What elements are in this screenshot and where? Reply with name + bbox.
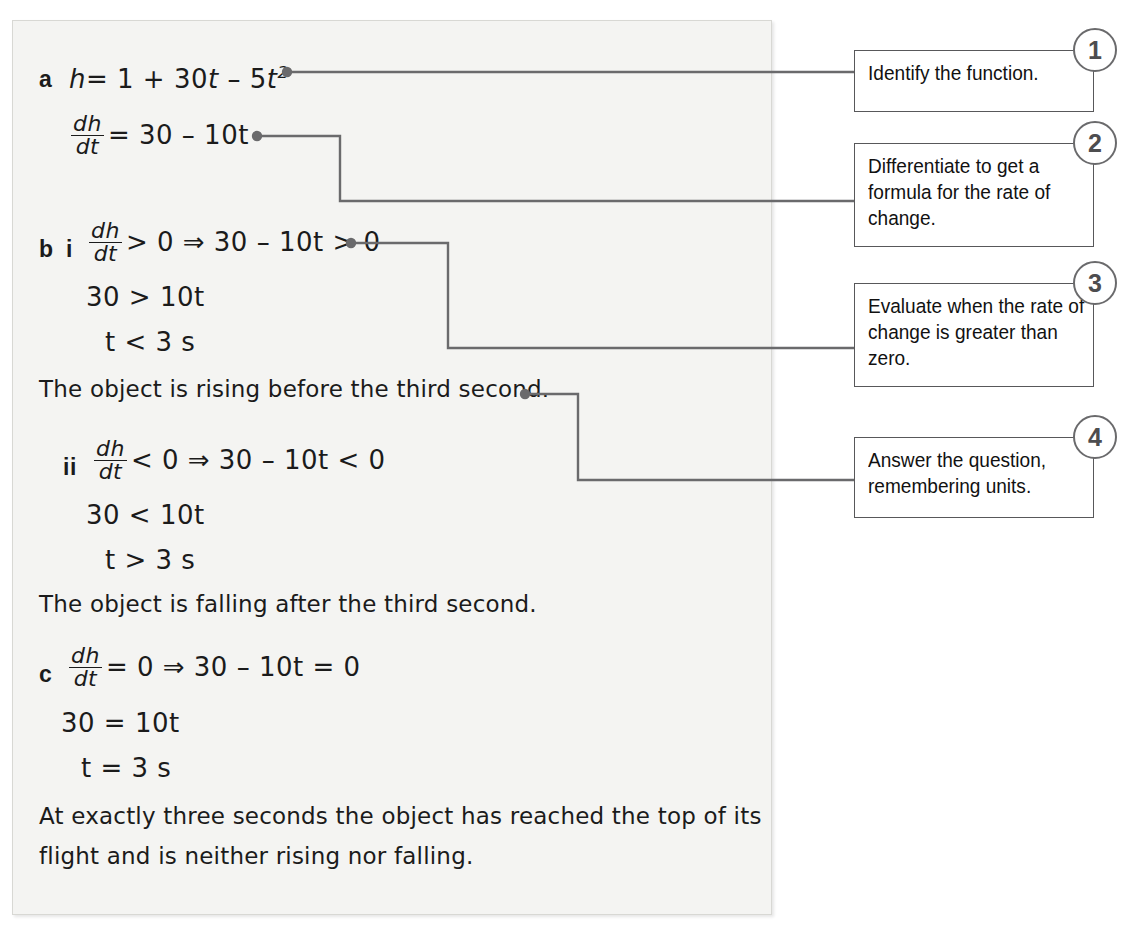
- worked-example-page: a h= 1 + 30t – 5t2 dh dt = 30 – 10t b i …: [0, 0, 1141, 943]
- equation-c: dh dt = 0 ⇒ 30 – 10t = 0: [68, 646, 361, 692]
- equation-b-i-step3: t < 3 s: [105, 327, 195, 357]
- fraction-dh-dt: dh dt: [94, 438, 127, 484]
- solution-panel: a h= 1 + 30t – 5t2 dh dt = 30 – 10t b i …: [12, 20, 772, 915]
- step-a-label: a: [39, 63, 52, 93]
- step-c-label: c: [39, 658, 52, 688]
- equation-b-i: dh dt > 0 ⇒ 30 – 10t > 0: [88, 221, 381, 267]
- equation-c-step2: 30 = 10t: [61, 708, 180, 738]
- callout-badge-3: 3: [1073, 261, 1117, 305]
- callout-badge-1: 1: [1073, 28, 1117, 72]
- statement-falling: The object is falling after the third se…: [39, 591, 537, 617]
- callout-badge-2: 2: [1073, 121, 1117, 165]
- equation-a-derivative: dh dt = 30 – 10t: [70, 114, 249, 160]
- callout-badge-4: 4: [1073, 415, 1117, 459]
- step-b-i-label: i: [66, 233, 73, 263]
- equation-b-ii-step3: t > 3 s: [105, 545, 195, 575]
- statement-top-of-flight-line2: flight and is neither rising nor falling…: [39, 843, 473, 869]
- step-b-label: b: [39, 233, 54, 263]
- step-b-ii-label: ii: [63, 451, 77, 481]
- callout-box-2: Differentiate to get a formula for the r…: [854, 143, 1094, 247]
- callout-box-4: Answer the question, remembering units.: [854, 437, 1094, 518]
- statement-top-of-flight-line1: At exactly three seconds the object has …: [39, 803, 762, 829]
- callout-box-1: Identify the function.: [854, 50, 1094, 112]
- fraction-dh-dt: dh dt: [69, 645, 102, 691]
- fraction-dh-dt: dh dt: [71, 113, 104, 159]
- equation-b-ii-step2: 30 < 10t: [86, 500, 205, 530]
- fraction-dh-dt: dh dt: [89, 220, 122, 266]
- equation-b-i-step2: 30 > 10t: [86, 282, 205, 312]
- equation-b-ii: dh dt < 0 ⇒ 30 – 10t < 0: [93, 439, 386, 485]
- equation-c-step3: t = 3 s: [81, 753, 171, 783]
- statement-rising: The object is rising before the third se…: [39, 376, 549, 402]
- callout-box-3: Evaluate when the rate of change is grea…: [854, 283, 1094, 387]
- equation-a-height: h= 1 + 30t – 5t2: [69, 63, 289, 94]
